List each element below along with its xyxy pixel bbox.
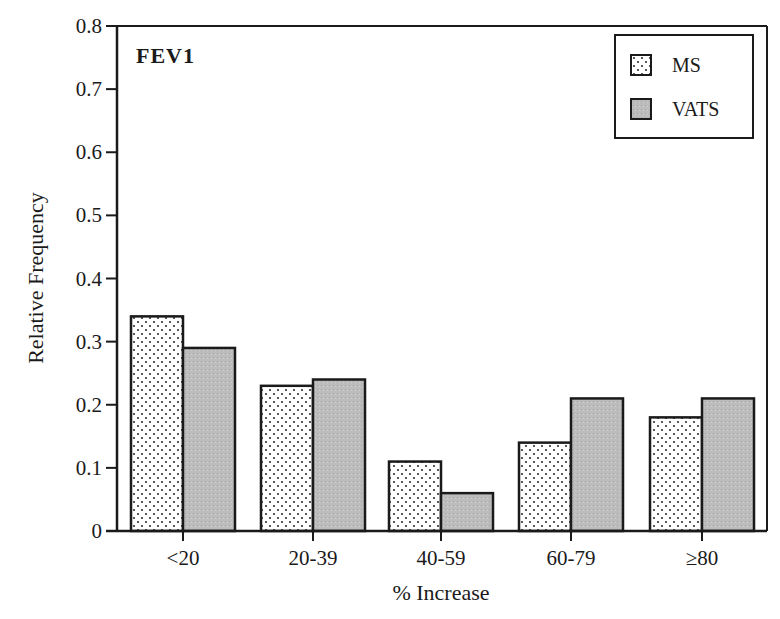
bar-ms-1 (131, 316, 183, 531)
x-tick-label: 40-59 (417, 546, 466, 570)
legend-label-ms: MS (672, 54, 701, 76)
legend-swatch-ms (631, 55, 651, 75)
x-tick-label: <20 (167, 546, 200, 570)
x-axis-title: % Increase (392, 580, 489, 605)
x-axis: <2020-3940-5960-79≥80 (106, 531, 767, 570)
legend-label-vats: VATS (672, 98, 719, 120)
y-tick-label: 0 (92, 519, 103, 543)
y-axis-title: Relative Frequency (23, 192, 48, 364)
y-tick-label: 0.1 (76, 456, 102, 480)
bar-vats-1 (183, 348, 235, 531)
bar-chart: 00.10.20.30.40.50.60.70.8 <2020-3940-596… (0, 0, 780, 619)
legend: MS VATS (615, 35, 753, 138)
y-tick-label: 0.6 (76, 140, 102, 164)
x-tick-label: ≥80 (686, 546, 719, 570)
y-axis: 00.10.20.30.40.50.60.70.8 (76, 14, 117, 543)
bar-vats-5 (702, 398, 754, 531)
panel-title: FEV1 (136, 43, 195, 68)
x-tick-label: 60-79 (547, 546, 596, 570)
y-tick-label: 0.8 (76, 14, 102, 38)
y-tick-label: 0.5 (76, 203, 102, 227)
bar-vats-2 (313, 380, 365, 532)
bar-ms-4 (519, 443, 571, 531)
y-tick-label: 0.7 (76, 77, 102, 101)
bar-ms-3 (389, 462, 441, 531)
bars-group (131, 316, 754, 531)
y-tick-label: 0.2 (76, 393, 102, 417)
y-tick-label: 0.3 (76, 330, 102, 354)
bar-vats-3 (441, 493, 493, 531)
bar-ms-5 (650, 417, 702, 531)
legend-box (615, 35, 753, 138)
bar-vats-4 (571, 398, 623, 531)
legend-swatch-vats (631, 99, 651, 119)
y-tick-label: 0.4 (76, 267, 103, 291)
x-tick-label: 20-39 (289, 546, 338, 570)
bar-ms-2 (261, 386, 313, 531)
